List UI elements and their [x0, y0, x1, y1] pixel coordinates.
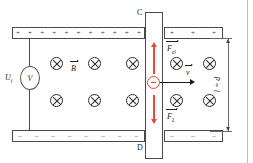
lorentz-force-arrowhead-icon: [151, 119, 157, 124]
charge-sign: –: [68, 133, 72, 140]
charge-sign: –: [35, 133, 39, 140]
charge-sign: +: [52, 30, 56, 37]
charge-sign: –: [51, 133, 55, 140]
velocity-label: v: [186, 68, 190, 77]
wire-left-bottom: [29, 90, 30, 130]
charge-sign: –: [134, 133, 138, 140]
field-symbol: [126, 57, 139, 70]
voltmeter[interactable]: V: [20, 66, 40, 90]
charge-sign: –: [191, 133, 195, 140]
charge-sign: +: [212, 30, 216, 37]
charge-sign: +: [191, 30, 195, 37]
magnetic-field-label: B: [71, 64, 76, 73]
charge-sign: +: [16, 30, 20, 37]
field-symbol: [170, 94, 183, 107]
field-symbol: [170, 57, 183, 70]
vector-arrow-icon: [166, 41, 178, 42]
dimension-label: l = d: [213, 77, 222, 93]
physics-diagram: +++++++++++ +++ –––––––– ––– V Ui C D B …: [0, 0, 253, 163]
charge-sign: +: [137, 30, 141, 37]
charge-sign: –: [118, 133, 122, 140]
charge-sign: +: [89, 30, 93, 37]
charge-sign: +: [28, 30, 32, 37]
dimension-tick-bottom: [210, 131, 232, 132]
wire-left-top: [29, 38, 30, 66]
charge-sign: –: [101, 133, 105, 140]
electron-charge: [147, 76, 160, 89]
vector-arrow-icon: [166, 109, 177, 110]
charge-sign: +: [40, 30, 44, 37]
field-symbol: [88, 94, 101, 107]
charge-sign: +: [170, 30, 174, 37]
charge-sign: –: [18, 133, 22, 140]
negative-plate-left-charges: ––––––––: [18, 130, 138, 142]
field-symbol: [50, 57, 63, 70]
velocity-arrow-shaft: [160, 82, 191, 83]
velocity-arrowhead-icon: [190, 79, 195, 85]
field-symbol: [88, 57, 101, 70]
charge-sign: –: [170, 133, 174, 140]
electric-force-label: Fel: [167, 44, 176, 55]
charge-sign: +: [101, 30, 105, 37]
field-symbol: [126, 94, 139, 107]
charge-sign: +: [125, 30, 129, 37]
charge-sign: +: [76, 30, 80, 37]
charge-sign: +: [113, 30, 117, 37]
vector-arrow-icon: [185, 65, 192, 66]
dimension-line: [228, 39, 229, 131]
voltmeter-symbol: V: [28, 74, 33, 83]
dimension-arrowhead-top-icon: [226, 39, 230, 43]
field-symbol: [203, 57, 216, 70]
vector-arrow-icon: [70, 61, 78, 62]
node-label-c: C: [137, 8, 142, 17]
positive-plate-left-charges: +++++++++++: [16, 27, 141, 39]
page-edge-rule: [247, 0, 248, 163]
charge-sign: –: [213, 133, 217, 140]
lorentz-force-label: FL: [167, 112, 175, 123]
electric-force-shaft: [153, 46, 155, 74]
field-symbol: [50, 94, 63, 107]
charge-sign: –: [85, 133, 89, 140]
voltage-label: Ui: [5, 73, 12, 84]
field-symbol: [203, 94, 216, 107]
charge-sign: +: [64, 30, 68, 37]
node-label-d: D: [137, 143, 143, 152]
minus-sign-icon: [151, 82, 156, 83]
dimension-arrowhead-bottom-icon: [226, 127, 230, 131]
lorentz-force-shaft: [153, 95, 155, 120]
